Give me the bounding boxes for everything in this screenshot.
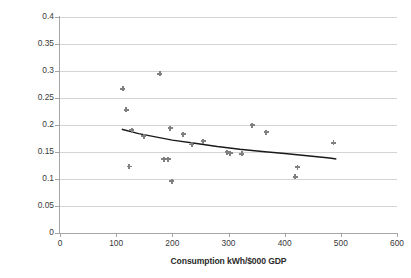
- data-point: [141, 134, 146, 139]
- x-axis-title: Consumption kWh/$000 GDP: [60, 256, 397, 266]
- y-axis-tick-label: 0: [18, 228, 54, 237]
- y-axis-tick-label: 0.2: [18, 120, 54, 129]
- y-axis-tick: [55, 179, 59, 180]
- y-axis-tick-label: 0.35: [18, 39, 54, 48]
- x-axis-tick: [229, 233, 230, 237]
- data-point: [250, 123, 255, 128]
- y-axis-tick: [55, 125, 59, 126]
- x-axis-tick: [116, 233, 117, 237]
- y-axis-tick-label: 0.1: [18, 174, 54, 183]
- data-point: [201, 139, 206, 144]
- y-axis-tick-label: 0.3: [18, 66, 54, 75]
- data-point: [157, 71, 162, 76]
- x-axis-tick-label: 600: [382, 238, 411, 248]
- data-point: [169, 179, 174, 184]
- y-axis-tick-label: 0.05: [18, 201, 54, 210]
- x-axis-tick: [285, 233, 286, 237]
- y-axis-tick: [55, 44, 59, 45]
- x-axis-tick-label: 300: [214, 238, 244, 248]
- trendline: [60, 17, 397, 233]
- y-axis-tick: [55, 71, 59, 72]
- data-point: [295, 165, 300, 170]
- y-axis-line: [59, 16, 60, 234]
- y-axis-tick: [55, 17, 59, 18]
- x-axis-tick-label: 0: [45, 238, 75, 248]
- x-axis-tick-label: 500: [326, 238, 356, 248]
- data-point: [181, 132, 186, 137]
- data-point: [124, 107, 129, 112]
- data-point: [166, 157, 171, 162]
- x-axis-tick-label: 400: [270, 238, 300, 248]
- y-axis-tick-label: 0.4: [18, 12, 54, 21]
- data-point: [168, 126, 173, 131]
- data-point: [129, 128, 134, 133]
- x-axis-tick: [397, 233, 398, 237]
- data-point: [293, 174, 298, 179]
- data-point: [120, 86, 125, 91]
- x-axis-tick-label: 200: [157, 238, 187, 248]
- x-axis-tick: [341, 233, 342, 237]
- data-point: [228, 151, 233, 156]
- y-axis-tick: [55, 233, 59, 234]
- data-point: [189, 142, 194, 147]
- y-axis-tick-label: 0.25: [18, 93, 54, 102]
- plot-area: [60, 17, 397, 233]
- data-point: [239, 151, 244, 156]
- data-point: [127, 164, 132, 169]
- x-axis-tick: [60, 233, 61, 237]
- x-axis-tick-label: 100: [101, 238, 131, 248]
- x-axis-tick: [172, 233, 173, 237]
- y-axis-tick: [55, 152, 59, 153]
- y-axis-tick-label: 0.15: [18, 147, 54, 156]
- y-axis-tick: [55, 98, 59, 99]
- scatter-chart: Average industrial and domestic price, $…: [0, 0, 411, 278]
- data-point: [331, 140, 336, 145]
- y-axis-tick: [55, 206, 59, 207]
- data-point: [264, 130, 269, 135]
